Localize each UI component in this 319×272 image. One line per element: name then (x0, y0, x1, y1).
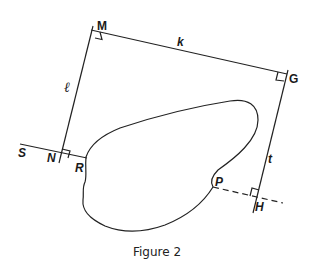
label-s: S (18, 146, 26, 160)
right-angle-m (95, 32, 102, 40)
figure-caption: Figure 2 (133, 245, 181, 259)
label-h: H (255, 200, 264, 214)
label-t: t (268, 152, 273, 166)
segment-mg (91, 30, 287, 74)
label-n: N (47, 151, 56, 165)
diagram-canvas: M G k ℓ t S N R P H Figure 2 (0, 0, 319, 272)
label-g: G (289, 72, 298, 86)
label-k: k (177, 35, 185, 49)
label-p: P (215, 175, 224, 189)
label-r: R (75, 161, 84, 175)
region-outline (83, 100, 258, 231)
label-m: M (97, 19, 107, 33)
segment-gh (253, 70, 288, 213)
dashed-line-ph (213, 187, 283, 203)
label-l: ℓ (64, 79, 70, 95)
